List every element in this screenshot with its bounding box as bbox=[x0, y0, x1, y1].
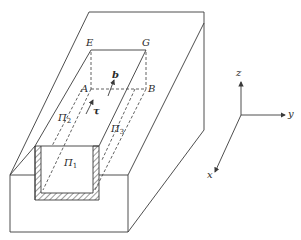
point-label-g: G bbox=[142, 38, 150, 48]
surface-label-pi1: Π1 bbox=[64, 158, 77, 170]
axis-label-z: z bbox=[236, 68, 241, 78]
point-label-a: A bbox=[81, 84, 88, 94]
vector-label-tau: τ bbox=[93, 106, 100, 116]
point-label-b: B bbox=[148, 84, 155, 94]
vectors bbox=[86, 80, 114, 114]
vector-label-b: b bbox=[112, 70, 119, 80]
surface-label-pi3: Π3 bbox=[111, 124, 124, 136]
coordinate-axes bbox=[215, 82, 285, 172]
groove-hatched-walls bbox=[35, 146, 99, 200]
block-drawing bbox=[0, 0, 301, 240]
diagram-canvas: E G A B b τ Π2 Π3 Π1 z y x bbox=[0, 0, 301, 240]
surface-label-pi2: Π2 bbox=[58, 113, 71, 125]
axis-label-y: y bbox=[288, 109, 294, 119]
axis-label-x: x bbox=[207, 170, 213, 180]
point-label-e: E bbox=[86, 38, 93, 48]
